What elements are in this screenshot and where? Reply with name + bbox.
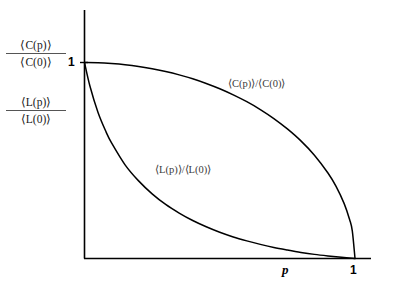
pathlength-denominator: ⟨L(0)⟩	[2, 111, 70, 126]
x-axis-tick-label-one: 1	[350, 263, 357, 277]
clustering-numerator: ⟨C(p)⟩	[2, 38, 70, 53]
annotation-pathlength-curve: ⟨L(p)⟩/⟨L(0)⟩	[155, 163, 211, 175]
y-axis-tick-label-one: 1	[68, 55, 75, 69]
figure-container: ⟨C(p)⟩ ⟨C(0)⟩ ⟨L(p)⟩ ⟨L(0)⟩ 1 1 p ⟨C(p)⟩…	[0, 0, 399, 287]
annotation-clustering-curve: ⟨C(p)⟩/⟨C(0)⟩	[228, 77, 285, 89]
y-axis-label-clustering: ⟨C(p)⟩ ⟨C(0)⟩	[2, 38, 70, 70]
x-axis-variable-label: p	[282, 262, 289, 278]
curve-clustering-coefficient	[85, 63, 356, 259]
y-axis-label-pathlength: ⟨L(p)⟩ ⟨L(0)⟩	[2, 95, 70, 127]
clustering-denominator: ⟨C(0)⟩	[2, 54, 70, 69]
pathlength-numerator: ⟨L(p)⟩	[2, 95, 70, 110]
curve-path-length	[85, 63, 356, 259]
